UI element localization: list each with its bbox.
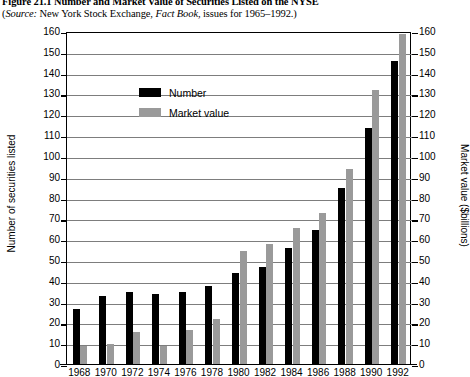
bar-market-value — [133, 332, 140, 365]
bar-group — [338, 32, 353, 365]
y-tick-label-right: 30 — [419, 298, 449, 308]
bar-number — [205, 286, 212, 365]
y-tick-right — [412, 33, 418, 34]
y-tick-left — [61, 304, 67, 305]
y-axis-left-labels: 0102030405060708090100110120130140150160 — [30, 32, 60, 365]
source-label: Source: — [5, 8, 37, 19]
y-axis-left-title: Number of securities listed — [6, 114, 17, 274]
y-tick-right — [412, 116, 418, 117]
bar-group — [232, 32, 247, 365]
bar-market-value — [213, 319, 220, 365]
y-tick-right — [412, 324, 418, 325]
y-tick-label-right: 110 — [419, 131, 449, 141]
bar-group — [152, 32, 167, 365]
y-tick-label-right: 40 — [419, 277, 449, 287]
y-tick-label-left: 100 — [32, 152, 60, 162]
chart-legend: Number Market value — [139, 85, 229, 125]
bar-group — [312, 32, 327, 365]
bar-market-value — [240, 251, 247, 365]
legend-swatch-number — [139, 88, 161, 97]
y-tick-label-left: 10 — [32, 339, 60, 349]
bar-market-value — [266, 244, 273, 365]
y-tick-label-left: 140 — [32, 69, 60, 79]
bar-number — [259, 267, 266, 365]
y-tick-label-right: 60 — [419, 235, 449, 245]
y-axis-right-labels: 0102030405060708090100110120130140150160 — [419, 32, 453, 365]
legend-item-number: Number — [139, 85, 229, 100]
y-tick-right — [412, 95, 418, 96]
y-tick-left — [61, 262, 67, 263]
y-tick-label-left: 30 — [32, 298, 60, 308]
y-tick-left — [61, 283, 67, 284]
y-tick-label-right: 10 — [419, 339, 449, 349]
y-tick-label-right: 70 — [419, 214, 449, 224]
y-tick-left — [61, 54, 67, 55]
y-tick-label-left: 0 — [32, 360, 60, 370]
bar-group — [391, 32, 406, 365]
bar-group — [179, 32, 194, 365]
bar-group — [365, 32, 380, 365]
bar-number — [338, 188, 345, 365]
bar-market-value — [80, 346, 87, 365]
y-tick-label-right: 90 — [419, 173, 449, 183]
bar-market-value — [293, 228, 300, 365]
bar-number — [391, 61, 398, 365]
y-tick-right — [412, 158, 418, 159]
y-tick-label-left: 70 — [32, 214, 60, 224]
y-tick-label-right: 160 — [419, 27, 449, 37]
source-text: New York Stock Exchange, — [37, 8, 155, 19]
y-tick-right — [412, 200, 418, 201]
bar-market-value — [319, 213, 326, 365]
bar-group — [73, 32, 88, 365]
bar-number — [99, 296, 106, 365]
bar-market-value — [372, 90, 379, 365]
bar-number — [285, 248, 292, 365]
y-axis-right-title: Market value ($billions) — [459, 116, 470, 276]
bar-group — [205, 32, 220, 365]
bar-group — [126, 32, 141, 365]
y-tick-label-left: 40 — [32, 277, 60, 287]
bar-number — [312, 230, 319, 365]
bar-number — [126, 292, 133, 365]
y-tick-label-left: 110 — [32, 131, 60, 141]
legend-item-market-value: Market value — [139, 105, 229, 120]
y-tick-label-right: 130 — [419, 89, 449, 99]
y-tick-label-right: 50 — [419, 256, 449, 266]
source-book-title: Fact Book — [155, 8, 198, 19]
bar-market-value — [399, 34, 406, 365]
y-tick-left — [61, 345, 67, 346]
y-tick-right — [412, 345, 418, 346]
y-tick-label-left: 80 — [32, 194, 60, 204]
y-tick-label-left: 150 — [32, 48, 60, 58]
y-tick-right — [412, 220, 418, 221]
y-tick-label-left: 130 — [32, 89, 60, 99]
bar-group — [99, 32, 114, 365]
bar-group — [285, 32, 300, 365]
y-tick-right — [412, 179, 418, 180]
legend-swatch-market-value — [139, 108, 161, 117]
y-tick-left — [61, 33, 67, 34]
y-tick-label-left: 90 — [32, 173, 60, 183]
x-axis-line — [60, 364, 417, 365]
y-tick-left — [61, 241, 67, 242]
y-tick-label-right: 20 — [419, 318, 449, 328]
y-tick-label-right: 120 — [419, 110, 449, 120]
y-tick-right — [412, 262, 418, 263]
y-tick-right — [412, 137, 418, 138]
y-tick-label-left: 160 — [32, 27, 60, 37]
y-tick-label-right: 0 — [419, 360, 449, 370]
x-axis-labels: 1968197019721974197619781980198219841986… — [66, 367, 411, 377]
y-tick-left — [61, 116, 67, 117]
y-tick-label-right: 100 — [419, 152, 449, 162]
y-tick-right — [412, 241, 418, 242]
y-tick-left — [61, 158, 67, 159]
y-tick-label-left: 60 — [32, 235, 60, 245]
plot-area: Number Market value — [66, 32, 411, 365]
y-tick-right — [412, 75, 418, 76]
y-tick-left — [61, 220, 67, 221]
y-tick-label-right: 140 — [419, 69, 449, 79]
bar-number — [365, 128, 372, 365]
y-tick-left — [61, 179, 67, 180]
bar-market-value — [186, 330, 193, 365]
